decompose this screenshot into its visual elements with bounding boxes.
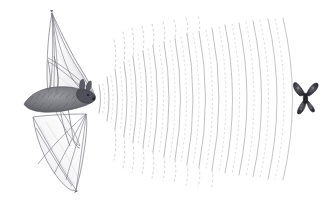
moth-thorax [303,93,308,103]
bat-eye [87,94,89,96]
illustration-canvas: Bat echolocation diagram Pen-and-ink sty… [0,0,336,214]
bat-echolocation-illustration [0,0,336,214]
